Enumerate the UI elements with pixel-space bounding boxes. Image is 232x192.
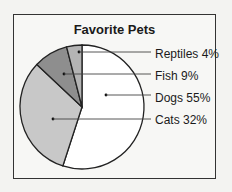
- label-cats: Cats 32%: [155, 113, 207, 127]
- label-dogs: Dogs 55%: [155, 91, 210, 105]
- label-fish: Fish 9%: [155, 69, 198, 83]
- label-reptiles: Reptiles 4%: [155, 47, 219, 61]
